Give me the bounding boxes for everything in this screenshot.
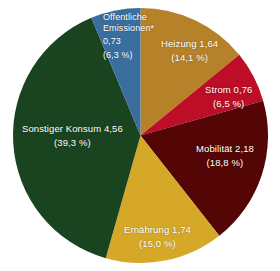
slice-label-strom: Strom 0,76 (6,5 %) (205, 84, 252, 110)
pie-chart: Öffentliche Emissionen* 0,73 (6,3 %) Hei… (0, 0, 280, 271)
slice-value-oeffentliche-emissionen: 0,73 (103, 36, 169, 47)
slice-name-value-strom: Strom 0,76 (205, 84, 252, 95)
slice-name-value-ernaehrung: Ernährung 1,74 (124, 224, 191, 235)
slice-label-oeffentliche-emissionen: Öffentliche Emissionen* 0,73 (6,3 %) (103, 12, 169, 61)
slice-name-oeffentliche-emissionen-line2: Emissionen* (103, 23, 154, 33)
slice-name-oeffentliche-emissionen-line1: Öffentliche (103, 12, 147, 22)
slice-label-mobilitaet: Mobilität 2,18 (18,8 %) (196, 143, 254, 169)
slice-percent-sonstiger-konsum: (39,3 %) (22, 137, 123, 149)
slice-percent-ernaehrung: (15,0 %) (124, 238, 191, 250)
slice-name-value-heizung: Heizung 1,64 (161, 38, 218, 49)
slice-label-ernaehrung: Ernährung 1,74 (15,0 %) (124, 224, 191, 250)
slice-name-value-mobilitaet: Mobilität 2,18 (196, 143, 254, 154)
slice-percent-heizung: (14,1 %) (161, 52, 218, 64)
slice-percent-mobilitaet: (18,8 %) (196, 157, 254, 169)
slice-name-value-sonstiger-konsum: Sonstiger Konsum 4,56 (22, 123, 123, 134)
slice-label-heizung: Heizung 1,64 (14,1 %) (161, 38, 218, 64)
slice-percent-strom: (6,5 %) (205, 98, 252, 110)
slice-percent-oeffentliche-emissionen: (6,3 %) (103, 50, 169, 61)
slice-label-sonstiger-konsum: Sonstiger Konsum 4,56 (39,3 %) (22, 123, 123, 149)
